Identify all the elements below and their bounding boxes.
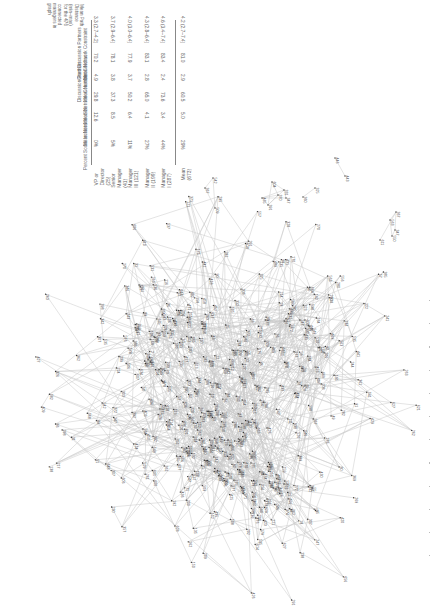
node-label: 576 (257, 348, 261, 354)
node-label: 208 (215, 410, 219, 416)
node-label: 198 (221, 421, 225, 427)
node-label: 329 (209, 439, 213, 445)
node-label: 390 (184, 387, 188, 393)
node-label: 606 (166, 421, 170, 427)
node-label: 563 (328, 276, 332, 282)
node-label: 307 (97, 336, 101, 342)
node-label: 12 (245, 358, 249, 362)
table-cell: 11% (127, 140, 132, 149)
node-label: 526 (158, 414, 162, 420)
node-label: 224 (116, 367, 120, 373)
node-label: 505 (174, 343, 178, 349)
table-cell: 44% (160, 140, 165, 150)
node-label: 238 (300, 552, 304, 558)
node-label: 99 (96, 420, 100, 424)
node-label: 393 (252, 451, 256, 457)
node-label: 614 (255, 544, 259, 550)
node-label: 430 (319, 472, 323, 478)
node-label: 58 (299, 352, 303, 356)
table-cell: 37.3 (110, 92, 115, 101)
node-label: 221 (271, 519, 275, 525)
node-label: 110 (199, 338, 203, 344)
node-label: 10 (181, 338, 185, 342)
column-header: Distance (74, 4, 79, 22)
node-label: 520 (285, 480, 289, 486)
node-label: 540 (259, 507, 263, 513)
node-label: 252 (253, 403, 257, 409)
node-label: 398 (214, 438, 218, 444)
node-label: 621 (184, 429, 188, 435)
node-label: 80 (339, 467, 343, 471)
node-label: 147 (276, 409, 280, 415)
node-label: 206 (324, 352, 328, 358)
node-label: 231 (224, 478, 228, 484)
node-label: 542 (213, 178, 217, 184)
node-label: 372 (246, 330, 250, 336)
node-label: 264 (146, 353, 150, 359)
node-label: 330 (188, 347, 192, 353)
node-label: 362 (76, 355, 80, 361)
node-label: 209 (238, 350, 242, 356)
node-label: 392 (132, 412, 136, 418)
node-label: 449 (219, 437, 223, 443)
table-cell: 70.2 (93, 53, 98, 62)
node-label: 611 (380, 240, 384, 246)
node-label: 222 (364, 303, 368, 309)
node-label: 138 (49, 466, 53, 472)
node-label: 663 (256, 428, 260, 434)
table-cell: 2.8 (144, 74, 149, 81)
node-label: 18 (289, 508, 293, 512)
node-label: 429 (370, 418, 374, 424)
node-label: 466 (288, 498, 292, 504)
node-label: 22 (215, 355, 219, 359)
node-label: 580 (243, 336, 247, 342)
table-cell: 3.4 (160, 112, 165, 119)
node-label: 592 (253, 480, 257, 486)
node-label: 62 (188, 394, 192, 398)
node-label: 407 (316, 378, 320, 384)
table-cell: 4.2 (2.7–7.4) (180, 16, 185, 43)
table-cell: 6.4 (127, 112, 132, 119)
node-label: 436 (180, 492, 184, 498)
node-label: 606 (132, 224, 136, 230)
node-label: 200 (186, 500, 190, 506)
node-label: 541 (367, 392, 371, 398)
node-label: 334 (161, 309, 165, 315)
node-label: 111 (288, 418, 292, 423)
node-label: 264 (260, 400, 264, 406)
node-label: 576 (123, 336, 127, 342)
node-label: 284 (233, 422, 237, 428)
node-label: 394 (215, 383, 219, 389)
node-label: 450 (146, 434, 150, 440)
node-label: 509 (215, 208, 219, 214)
node-label: 367 (313, 418, 317, 424)
node-label: 501 (140, 286, 144, 292)
node-label: 113 (173, 409, 177, 415)
node-label: 379 (264, 500, 268, 506)
table-cell: 78.1 (110, 53, 115, 62)
node-label: 367 (396, 212, 400, 218)
node-label: 637 (210, 312, 214, 318)
node-label: 282 (341, 410, 345, 416)
node-label: 426 (267, 428, 271, 434)
table-cell: 73.6 (160, 92, 165, 101)
column-header: managers in (52, 3, 57, 28)
node-label: 36 (166, 303, 170, 307)
node-label: 121 (161, 404, 165, 410)
node-label: 361 (358, 379, 362, 385)
node-label: 211 (238, 426, 242, 432)
node-label: 537 (166, 223, 170, 229)
node-label: 549 (152, 447, 156, 453)
nodes: 5051522435635144361824375611956283921815… (35, 157, 420, 605)
node-label: 464 (187, 317, 191, 323)
node-label: 577 (231, 485, 235, 491)
node-label: 604 (272, 182, 276, 188)
node-label: 546 (303, 430, 307, 436)
node-label: 65 (250, 372, 254, 376)
node-label: 262 (197, 429, 201, 435)
node-label: 263 (151, 277, 155, 283)
node-label: 374 (285, 509, 289, 515)
node-label: 135 (193, 528, 197, 534)
table-cell: 4.6 (3.4–7.4) (160, 16, 165, 43)
node-label: 423 (263, 520, 267, 526)
